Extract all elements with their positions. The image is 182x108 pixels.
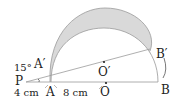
diagram-canvas: 15° A′ P 4 cm A 8 cm O O′ B B′ — [0, 0, 182, 108]
angle-arc — [38, 79, 39, 82]
length-label-AO: 8 cm — [63, 87, 88, 98]
point-O-dot — [105, 82, 107, 84]
point-O-prime-dot — [103, 61, 105, 63]
point-label-O-prime: O′ — [98, 65, 111, 79]
point-label-A-prime: A′ — [33, 57, 46, 71]
point-label-B: B — [161, 83, 170, 97]
point-label-P: P — [15, 74, 23, 88]
angle-label: 15° — [14, 62, 32, 73]
rotation-arc-B — [163, 58, 166, 78]
point-label-B-prime: B′ — [156, 47, 168, 61]
point-label-O: O — [100, 85, 110, 99]
length-label-PA: 4 cm — [14, 87, 39, 98]
point-label-A: A — [45, 85, 55, 99]
